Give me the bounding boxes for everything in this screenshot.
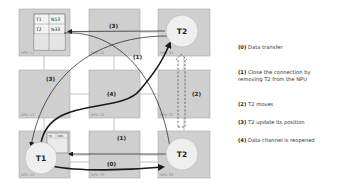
arrow-3-top bbox=[68, 31, 165, 32]
legend-text: T2 update its position bbox=[248, 119, 304, 125]
npu-label: NPU 11 bbox=[21, 51, 34, 55]
step-label-1-top: (1) bbox=[133, 54, 142, 60]
table-cell: N33 bbox=[51, 27, 60, 32]
routing-table-npu11: T1 N13 T2 N33 bbox=[34, 14, 65, 50]
npu-32 bbox=[158, 70, 210, 118]
legend-item-3: (3) T2 update its position bbox=[238, 119, 304, 126]
npu-label: NPU 13 bbox=[21, 173, 34, 177]
step-label-3-top: (3) bbox=[109, 23, 118, 29]
task-label-t1: T1 bbox=[36, 154, 46, 163]
legend-num: (0) bbox=[238, 44, 246, 50]
npu-21 bbox=[89, 9, 140, 56]
task-label-t2-new: T2 bbox=[177, 150, 187, 159]
legend-num: (1) bbox=[238, 69, 246, 75]
npu-label: NPU 12 bbox=[21, 113, 34, 117]
step-label-1-mid: (1) bbox=[117, 135, 126, 141]
table-cell: T2 bbox=[48, 134, 53, 138]
npu-23 bbox=[89, 131, 140, 178]
legend-item-0: (0) Data transfer bbox=[238, 44, 283, 51]
legend: (0) Data transfer (1) Close the connecti… bbox=[238, 0, 345, 191]
legend-item-1: (1) Close the connection by removing T2 … bbox=[238, 69, 311, 83]
npu-label: NPU 33 bbox=[160, 173, 173, 177]
step-label-2: (2) bbox=[192, 91, 201, 97]
table-cell: T2 bbox=[35, 27, 42, 32]
legend-text: Close the connection by bbox=[248, 69, 311, 75]
table-cell: N13 bbox=[51, 17, 60, 22]
npu-label: NPU 22 bbox=[91, 113, 104, 117]
legend-text: Data channel is reopened bbox=[248, 137, 315, 143]
step-label-3-left: (3) bbox=[46, 76, 55, 82]
npu-label: NPU 21 bbox=[91, 51, 104, 55]
task-label-t2-old: T2 bbox=[177, 27, 187, 36]
legend-item-2: (2) T2 moves bbox=[238, 101, 273, 108]
legend-text-line2: removing T2 from the NPU bbox=[238, 76, 307, 82]
table-cell: N33 bbox=[58, 134, 64, 138]
npu-12 bbox=[19, 70, 70, 118]
legend-item-4: (4) Data channel is reopened bbox=[238, 137, 315, 144]
legend-num: (3) bbox=[238, 119, 246, 125]
npu-label: NPU 23 bbox=[91, 173, 104, 177]
step-label-0: (0) bbox=[107, 161, 116, 167]
legend-text: T2 moves bbox=[248, 101, 273, 107]
legend-num: (2) bbox=[238, 101, 246, 107]
table-cell: T1 bbox=[35, 17, 42, 22]
legend-text: Data transfer bbox=[248, 44, 283, 50]
legend-num: (4) bbox=[238, 137, 246, 143]
step-label-4: (4) bbox=[107, 91, 116, 97]
